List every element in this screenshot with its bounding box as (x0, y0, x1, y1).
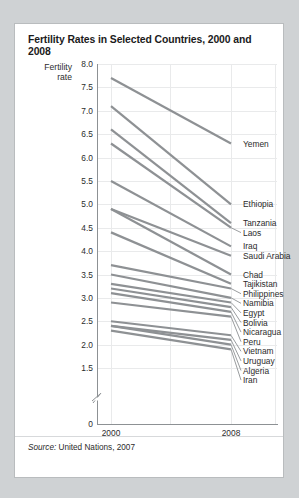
y-tick-label: 1.5 (81, 363, 93, 373)
y-tick-label: 5.5 (81, 176, 93, 186)
y-axis-caption: Fertility rate (20, 62, 72, 82)
y-tick-label: 7.5 (81, 82, 93, 92)
label-leader-line (231, 349, 241, 380)
y-tick-label: 2.0 (81, 340, 93, 350)
page-title: Fertility Rates in Selected Countries, 2… (28, 34, 276, 58)
chart-card: Fertility Rates in Selected Countries, 2… (14, 23, 284, 478)
series-line (111, 209, 231, 274)
y-tick-label: 3.5 (81, 270, 93, 280)
label-leader-line (231, 303, 241, 313)
y-tick-label: 6.5 (81, 129, 93, 139)
y-tick-label: 4.5 (81, 223, 93, 233)
series-line (111, 129, 231, 223)
label-leader-line (231, 298, 241, 304)
y-tick-label: 4.0 (81, 246, 93, 256)
y-tick-label: 8.0 (81, 59, 93, 69)
y-tick-label: 0 (88, 419, 93, 429)
x-axis-line (97, 424, 278, 425)
source-value: United Nations, 2007 (59, 443, 135, 452)
series-label-ethiopia: Ethiopia (243, 200, 273, 209)
y-tick-label: 3.0 (81, 293, 93, 303)
source-label: Source: (28, 443, 56, 452)
y-tick-label: 2.5 (81, 316, 93, 326)
y-tick-label: 7.0 (81, 106, 93, 116)
source-note: Source: United Nations, 2007 (28, 443, 135, 452)
y-tick-label: 5.0 (81, 199, 93, 209)
y-axis-caption-line1: Fertility (20, 62, 72, 72)
series-label-saudi-arabia: Saudi Arabia (243, 252, 291, 261)
series-line (111, 78, 231, 143)
y-axis-caption-line2: rate (20, 72, 72, 82)
source-divider (15, 436, 283, 437)
y-tick-label: 6.0 (81, 153, 93, 163)
series-label-yemen: Yemen (243, 139, 269, 148)
label-leader-line (231, 289, 241, 294)
label-leader-line (231, 228, 241, 233)
plot-area: 01.52.02.53.03.54.04.55.05.56.06.57.07.5… (97, 64, 277, 424)
series-label-laos: Laos (243, 228, 261, 237)
series-label-iran: Iran (243, 376, 257, 385)
